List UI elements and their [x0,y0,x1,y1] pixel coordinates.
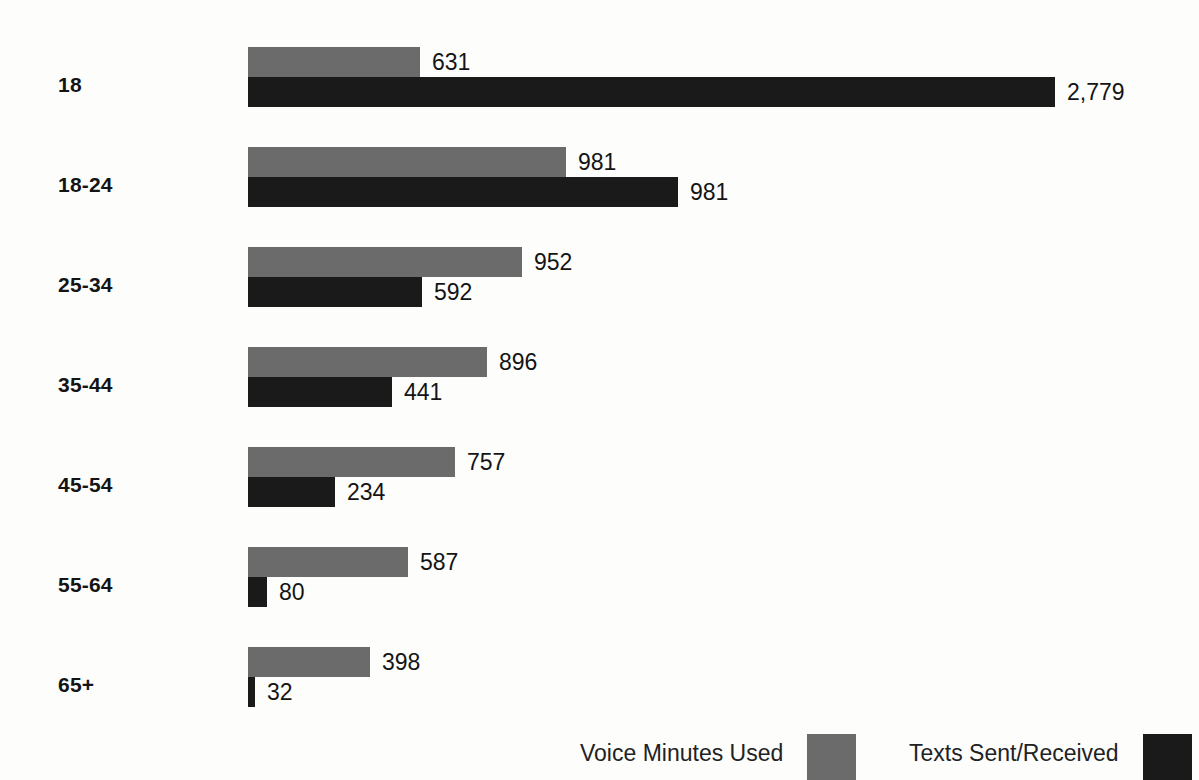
bar[interactable] [248,447,455,477]
bar-value-label: 398 [382,649,420,676]
bar[interactable] [248,47,420,77]
bar-value-label: 2,779 [1067,79,1125,106]
legend-swatch-voice-minutes-used [807,734,856,780]
bar-group: 25-34952592 [0,247,1199,343]
bar[interactable] [248,547,408,577]
category-label: 55-64 [58,573,113,597]
bar-track: 631 [248,47,1199,77]
bar-track: 587 [248,547,1199,577]
bar-value-label: 587 [420,549,458,576]
bar-group: 186312,779 [0,47,1199,143]
bar-group: 45-54757234 [0,447,1199,543]
bar-group: 35-44896441 [0,347,1199,443]
bar[interactable] [248,647,370,677]
chart-legend: Voice Minutes Used Texts Sent/Received [0,726,1199,780]
bar-value-label: 234 [347,479,385,506]
bar-value-label: 981 [578,149,616,176]
bar[interactable] [248,677,255,707]
bar-value-label: 592 [434,279,472,306]
category-label: 18-24 [58,173,113,197]
category-label: 65+ [58,673,94,697]
bar-track: 441 [248,377,1199,407]
bar-track: 592 [248,277,1199,307]
plot-area: 186312,77918-2498198125-3495259235-44896… [0,0,1199,720]
bar[interactable] [248,147,566,177]
legend-entry-voice-minutes-used[interactable]: Voice Minutes Used [580,726,856,780]
bar-value-label: 631 [432,49,470,76]
bar-value-label: 952 [534,249,572,276]
bar-track: 398 [248,647,1199,677]
bar-track: 234 [248,477,1199,507]
bar-value-label: 896 [499,349,537,376]
bar[interactable] [248,477,335,507]
bar-track: 896 [248,347,1199,377]
bar-track: 981 [248,147,1199,177]
bar-track: 32 [248,677,1199,707]
bar[interactable] [248,277,422,307]
bar-track: 981 [248,177,1199,207]
legend-label: Texts Sent/Received [909,740,1119,767]
bar-track: 2,779 [248,77,1199,107]
bar-value-label: 981 [690,179,728,206]
bar-group: 18-24981981 [0,147,1199,243]
bar[interactable] [248,347,487,377]
bar-group: 55-6458780 [0,547,1199,643]
category-label: 45-54 [58,473,113,497]
bar-track: 952 [248,247,1199,277]
bar-track: 80 [248,577,1199,607]
category-label: 35-44 [58,373,113,397]
bar-value-label: 757 [467,449,505,476]
bar[interactable] [248,177,678,207]
bar[interactable] [248,77,1055,107]
bar[interactable] [248,577,267,607]
bar-value-label: 441 [404,379,442,406]
category-label: 18 [58,73,82,97]
legend-label: Voice Minutes Used [580,740,783,767]
legend-entry-texts-sent-received[interactable]: Texts Sent/Received [909,726,1192,780]
bar-track: 757 [248,447,1199,477]
bar-value-label: 80 [279,579,305,606]
bar[interactable] [248,247,522,277]
horizontal-grouped-bar-chart: 186312,77918-2498198125-3495259235-44896… [0,0,1199,780]
bar-value-label: 32 [267,679,293,706]
bar[interactable] [248,377,392,407]
category-label: 25-34 [58,273,113,297]
legend-swatch-texts-sent-received [1143,734,1192,780]
